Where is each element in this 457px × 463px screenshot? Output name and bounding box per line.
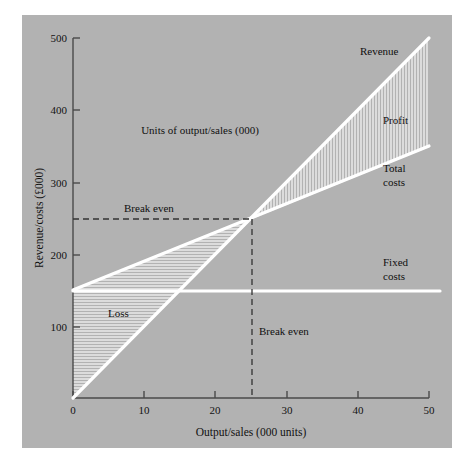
y-tick-label-400: 400 bbox=[51, 104, 68, 116]
x-tick-label-30: 30 bbox=[282, 404, 294, 416]
y-axis-title: Revenue/costs (£000) bbox=[33, 168, 46, 268]
x-tick-label-50: 50 bbox=[424, 404, 436, 416]
x-axis-title: Output/sales (000 units) bbox=[196, 426, 307, 439]
break-even-top-label: Break even bbox=[124, 202, 174, 214]
y-axis-ticks bbox=[73, 38, 80, 327]
chart-canvas: 500 400 300 200 100 0 10 20 30 40 50 Out… bbox=[0, 0, 457, 463]
break-even-chart-figure: 500 400 300 200 100 0 10 20 30 40 50 Out… bbox=[0, 0, 457, 463]
x-axis-ticks bbox=[73, 391, 429, 398]
total-costs-label-line1: Total bbox=[383, 162, 405, 174]
x-tick-label-10: 10 bbox=[139, 404, 151, 416]
units-note-label: Units of output/sales (000) bbox=[141, 124, 259, 137]
y-tick-label-200: 200 bbox=[51, 249, 68, 261]
revenue-label: Revenue bbox=[360, 45, 399, 57]
total-costs-line bbox=[73, 146, 429, 290]
x-tick-label-0: 0 bbox=[70, 404, 76, 416]
total-costs-label-line2: costs bbox=[383, 176, 405, 188]
loss-label: Loss bbox=[108, 307, 129, 319]
fixed-costs-label-line1: Fixed bbox=[383, 256, 409, 268]
x-tick-label-40: 40 bbox=[353, 404, 365, 416]
fixed-costs-label-line2: costs bbox=[383, 270, 405, 282]
break-even-bottom-label: Break even bbox=[259, 325, 309, 337]
y-tick-label-100: 100 bbox=[51, 321, 68, 333]
y-tick-label-300: 300 bbox=[51, 177, 68, 189]
y-tick-label-500: 500 bbox=[51, 32, 68, 44]
profit-label: Profit bbox=[383, 114, 408, 126]
x-tick-label-20: 20 bbox=[210, 404, 222, 416]
